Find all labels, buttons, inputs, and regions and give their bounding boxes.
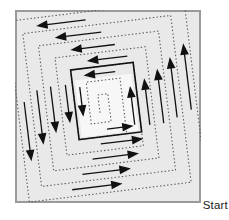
- start-label: Start: [203, 199, 228, 211]
- spiral-diagram: Start: [0, 0, 229, 220]
- spiral-diagram-canvas: [0, 0, 229, 220]
